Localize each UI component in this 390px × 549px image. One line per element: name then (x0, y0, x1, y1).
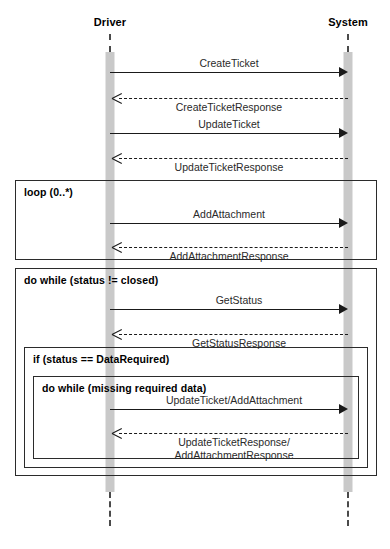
message-line-update-ticket-response (119, 158, 348, 159)
message-line-create-ticket-response (119, 98, 348, 99)
message-line-get-status-response (119, 334, 348, 335)
arrow-head-update-add-attachment-response (112, 427, 122, 439)
message-line-get-status (110, 309, 340, 310)
participant-label-system: System (328, 16, 368, 28)
participant-label-driver: Driver (94, 16, 126, 28)
arrow-head-get-status-response (112, 328, 122, 340)
message-line-create-ticket (110, 72, 340, 73)
fragment-label-do-while-outer: do while (status != closed) (24, 274, 158, 286)
lifeline-system-bottom (347, 492, 349, 526)
message-label-create-ticket: CreateTicket (199, 57, 258, 70)
sequence-diagram: Driver System loop (0..*) do while (stat… (0, 0, 390, 549)
arrow-head-create-ticket (339, 67, 348, 77)
message-label-update-ticket: UpdateTicket (198, 118, 259, 131)
message-line-add-attachment (110, 223, 340, 224)
lifeline-driver-top (109, 34, 111, 52)
fragment-label-loop: loop (0..*) (24, 186, 73, 198)
message-label-update-add-attachment-response-line2: AddAttachmentResponse (174, 449, 293, 462)
message-line-update-add-attachment-response (119, 433, 348, 434)
arrow-head-create-ticket-response (112, 92, 122, 104)
message-label-add-attachment: AddAttachment (193, 208, 265, 221)
arrow-head-add-attachment-response (112, 241, 122, 253)
message-line-update-ticket-add-attachment (110, 409, 340, 410)
message-label-add-attachment-response: AddAttachmentResponse (169, 250, 288, 263)
arrow-head-update-ticket-add-attachment (339, 404, 348, 414)
arrow-head-update-ticket-response (112, 152, 122, 164)
message-label-update-ticket-add-attachment: UpdateTicket/AddAttachment (166, 394, 302, 407)
message-label-get-status-response: GetStatusResponse (192, 337, 286, 350)
fragment-label-do-while-inner: do while (missing required data) (42, 382, 206, 394)
message-label-get-status: GetStatus (216, 294, 263, 307)
lifeline-driver-bottom (109, 492, 111, 526)
arrow-head-update-ticket (339, 128, 348, 138)
message-label-update-ticket-response: UpdateTicketResponse (175, 161, 284, 174)
arrow-head-add-attachment (339, 218, 348, 228)
message-line-update-ticket (110, 133, 340, 134)
arrow-head-get-status (339, 304, 348, 314)
message-line-add-attachment-response (119, 247, 348, 248)
message-label-update-add-attachment-response-line1: UpdateTicketResponse/ (178, 436, 290, 449)
fragment-label-if-data-required: if (status == DataRequired) (33, 353, 169, 365)
lifeline-system-top (347, 34, 349, 52)
message-label-create-ticket-response: CreateTicketResponse (176, 101, 282, 114)
